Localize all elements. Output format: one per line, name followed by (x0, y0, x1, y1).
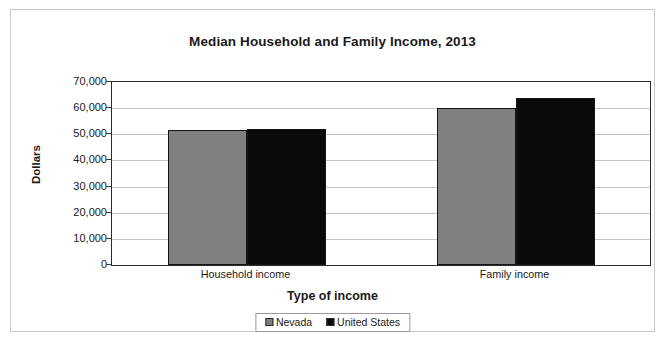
chart-title: Median Household and Family Income, 2013 (11, 34, 654, 49)
legend-label: Nevada (276, 316, 312, 328)
legend-label: United States (337, 316, 400, 328)
y-axis-tick-label: 60,000 (47, 101, 107, 113)
legend-entry: United States (326, 316, 400, 328)
gray-square-icon (265, 318, 273, 326)
y-axis-tick-label: 50,000 (47, 127, 107, 139)
y-axis-tick-label: 10,000 (47, 232, 107, 244)
chart-legend: NevadaUnited States (255, 313, 410, 332)
y-axis-tick-label: 20,000 (47, 206, 107, 218)
x-axis-category-label: Household income (201, 268, 290, 280)
y-axis-tick-label: 30,000 (47, 180, 107, 192)
bar-nevada-household-income (168, 130, 247, 265)
y-axis-tick-label: 40,000 (47, 153, 107, 165)
y-axis-tick-labels: 70,00060,00050,00040,00030,00020,00010,0… (45, 81, 107, 264)
x-axis-title: Type of income (11, 289, 654, 303)
bar-nevada-family-income (437, 108, 516, 265)
y-axis-tick-label: 0 (47, 258, 107, 270)
y-axis-tick-label: 70,000 (47, 75, 107, 87)
legend-entry: Nevada (265, 316, 312, 328)
bar-united-states-family-income (516, 98, 595, 265)
x-axis-category-label: Family income (480, 268, 550, 280)
y-axis-title: Dollars (27, 120, 45, 210)
plot-area (111, 81, 651, 266)
black-square-icon (326, 318, 334, 326)
bar-united-states-household-income (247, 129, 326, 265)
chart-frame: Median Household and Family Income, 2013… (10, 9, 655, 332)
